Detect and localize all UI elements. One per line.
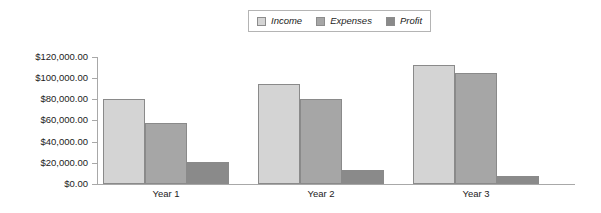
bar-expenses-year-3 <box>455 73 497 184</box>
y-tick-120000 <box>92 57 97 58</box>
bar-expenses-year-2 <box>300 99 342 184</box>
bar-expenses-year-1 <box>145 123 187 184</box>
y-axis-line <box>97 57 98 185</box>
y-label-wrap-120000: $120,000.00 <box>10 52 88 62</box>
y-tick-80000 <box>92 99 97 100</box>
y-axis-label-100000: $100,000.00 <box>35 73 88 83</box>
bar-chart: Income Expenses Profit $120,000.00 $100,… <box>0 0 601 213</box>
plot-area: $120,000.00 $100,000.00 $80,000.00 $60,0… <box>0 0 601 213</box>
y-label-wrap-60000: $60,000.00 <box>10 115 88 125</box>
bar-profit-year-2 <box>342 170 384 184</box>
y-axis-label-40000: $40,000.00 <box>40 137 88 147</box>
bar-profit-year-3 <box>497 176 539 184</box>
y-label-wrap-0: $0.00 <box>10 179 88 189</box>
x-axis-line <box>97 184 575 185</box>
x-axis-label-year-2: Year 2 <box>281 189 361 199</box>
y-axis-label-20000: $20,000.00 <box>40 158 88 168</box>
y-axis-label-120000: $120,000.00 <box>35 52 88 62</box>
y-label-wrap-40000: $40,000.00 <box>10 137 88 147</box>
x-axis-label-year-1: Year 1 <box>126 189 206 199</box>
x-axis-label-year-3: Year 3 <box>436 189 516 199</box>
y-axis-label-0: $0.00 <box>64 179 88 189</box>
y-tick-0 <box>92 184 97 185</box>
y-tick-20000 <box>92 163 97 164</box>
y-axis-label-60000: $60,000.00 <box>40 115 88 125</box>
y-label-wrap-80000: $80,000.00 <box>10 94 88 104</box>
y-label-wrap-20000: $20,000.00 <box>10 158 88 168</box>
bar-income-year-3 <box>413 65 455 184</box>
y-label-wrap-100000: $100,000.00 <box>10 73 88 83</box>
y-axis-label-80000: $80,000.00 <box>40 94 88 104</box>
y-tick-60000 <box>92 120 97 121</box>
bar-profit-year-1 <box>187 162 229 184</box>
y-tick-40000 <box>92 142 97 143</box>
y-tick-100000 <box>92 78 97 79</box>
bar-income-year-2 <box>258 84 300 184</box>
bar-income-year-1 <box>103 99 145 184</box>
